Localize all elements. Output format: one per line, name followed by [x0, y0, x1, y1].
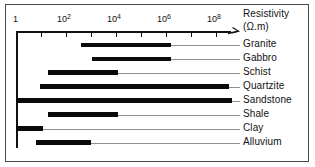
x-tick-label-1: 1 — [13, 14, 18, 24]
arrow-right-icon — [228, 26, 240, 38]
bar-clay — [16, 126, 43, 130]
row-leader-clay — [16, 129, 240, 130]
x-tick-major-1e6 — [166, 31, 167, 37]
row-label-schist: Schist — [243, 66, 271, 77]
x-tick-label-1e8: 108 — [207, 14, 221, 24]
row-label-clay: Clay — [243, 122, 263, 133]
row-label-alluvium: Alluvium — [243, 136, 282, 147]
bar-gabbro — [92, 57, 171, 61]
x-tick-major-1 — [16, 31, 17, 37]
chart-title: Resistivity — [243, 8, 289, 19]
x-tick-minor-1e3 — [91, 31, 92, 37]
bar-quartzite — [40, 84, 229, 88]
row-label-shale: Shale — [243, 108, 269, 119]
row-label-granite: Granite — [243, 38, 277, 49]
x-tick-major-1e4 — [116, 31, 117, 37]
bar-shale — [48, 112, 118, 116]
bar-granite — [81, 43, 171, 47]
x-tick-major-1e8 — [216, 31, 217, 37]
row-label-gabbro: Gabbro — [243, 52, 277, 63]
x-tick-label-1e2: 102 — [57, 14, 71, 24]
x-axis-line — [16, 31, 231, 33]
x-tick-minor-1e5 — [141, 31, 142, 37]
x-tick-minor-1e1 — [41, 31, 42, 37]
row-label-quartzite: Quartzite — [243, 80, 284, 91]
bar-alluvium — [36, 140, 91, 144]
row-label-sandstone: Sandstone — [243, 94, 292, 105]
x-tick-major-1e2 — [66, 31, 67, 37]
x-tick-label-1e4: 104 — [107, 14, 121, 24]
x-tick-minor-1e7 — [191, 31, 192, 37]
chart-units: (Ω.m) — [243, 21, 269, 32]
x-tick-label-1e6: 106 — [157, 14, 171, 24]
resistivity-chart-figure: 1 102 104 106 108 Resistivity (Ω.m) Gran… — [0, 0, 315, 167]
bar-schist — [48, 70, 118, 74]
bar-sandstone — [16, 98, 232, 102]
plot-area: 1 102 104 106 108 Resistivity (Ω.m) Gran… — [0, 0, 315, 167]
